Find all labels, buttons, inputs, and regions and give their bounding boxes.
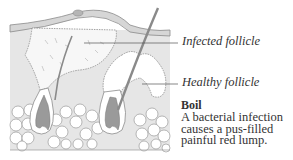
caption-line-3: painful red lump.	[181, 135, 293, 147]
infected-follicle-label: Infected follicle	[182, 34, 260, 49]
pore	[73, 10, 83, 16]
healthy-follicle-label: Healthy follicle	[182, 75, 259, 90]
caption: Boil A bacterial infection causes a pus-…	[181, 99, 293, 147]
